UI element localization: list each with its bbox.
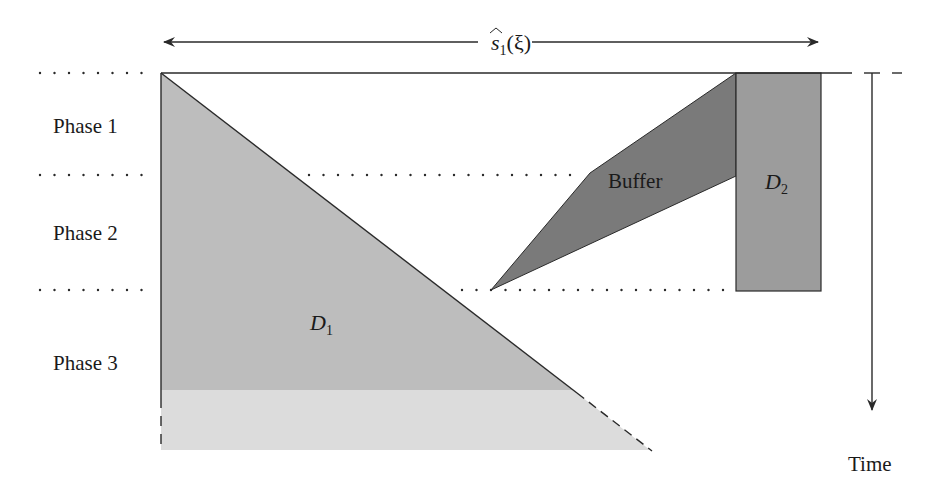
top-span-arrow: s1(ξ) (164, 28, 818, 58)
buffer-label: Buffer (608, 169, 662, 193)
phase-1-label: Phase 1 (53, 114, 118, 138)
top-span-label: s1(ξ) (491, 30, 531, 58)
phase-3-label: Phase 3 (53, 351, 118, 375)
d1-tail-region (161, 390, 650, 450)
time-label: Time (848, 452, 892, 476)
phase-2-label: Phase 2 (53, 221, 118, 245)
phase-diagram: s1(ξ) Phase 1 Phase 2 Phase 3 D1 Buffer … (0, 0, 940, 482)
time-axis: Time (848, 73, 892, 476)
